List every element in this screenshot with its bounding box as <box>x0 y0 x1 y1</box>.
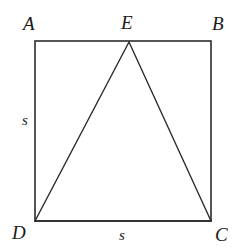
side-label-ad: s <box>22 113 28 128</box>
figure-canvas <box>0 0 243 250</box>
geometry-figure: A E B D C s s <box>0 0 243 250</box>
vertex-label-a: A <box>23 14 35 33</box>
vertex-label-c: C <box>215 225 228 244</box>
vertex-label-b: B <box>212 14 224 33</box>
side-label-dc: s <box>119 228 125 243</box>
vertex-label-e: E <box>121 13 133 32</box>
vertex-label-d: D <box>12 223 26 242</box>
